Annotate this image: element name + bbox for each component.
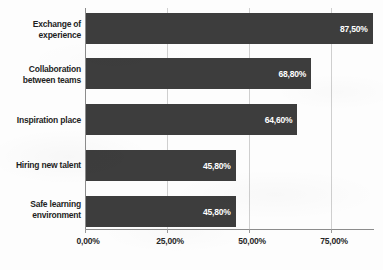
category-label-line: environment: [3, 210, 81, 221]
category-label-line: Inspiration place: [3, 115, 81, 126]
bar-hiring-new-talent: 45,80%: [85, 150, 236, 181]
category-label-line: Safe learning: [3, 199, 81, 210]
x-tick-mark-25: [167, 229, 168, 233]
x-tick-mark-50: [249, 229, 250, 233]
category-label-inspiration-place: Inspiration place: [3, 115, 81, 126]
category-label-safe-learning-environment: Safe learning environment: [3, 199, 81, 220]
bar-safe-learning-environment: 45,80%: [85, 196, 236, 227]
bar-collaboration-between-teams: 68,80%: [85, 58, 311, 89]
category-label-line: Collaboration: [3, 64, 81, 75]
bar-value-label: 68,80%: [279, 69, 307, 79]
category-label-line: Exchange of: [3, 19, 81, 30]
x-tick-mark-75: [331, 229, 332, 233]
category-label-line: experience: [3, 30, 81, 41]
bar-value-label: 45,80%: [203, 207, 231, 217]
x-tick-label-0: 0,00%: [76, 236, 99, 246]
category-label-collaboration-between-teams: Collaboration between teams: [3, 64, 81, 85]
y-axis-line: [85, 8, 86, 230]
bar-row: 87,50%: [85, 13, 374, 44]
x-tick-mark-0: [85, 229, 86, 233]
x-tick-label-75: 75,00%: [320, 236, 348, 246]
bar-exchange-of-experience: 87,50%: [85, 13, 373, 44]
bar-chart: Exchange of experience Collaboration bet…: [0, 0, 383, 270]
category-label-line: between teams: [3, 75, 81, 86]
category-label-exchange-of-experience: Exchange of experience: [3, 19, 81, 40]
category-label-line: Hiring new talent: [3, 160, 81, 171]
x-tick-label-50: 50,00%: [238, 236, 266, 246]
category-axis-labels: Exchange of experience Collaboration bet…: [0, 0, 81, 270]
bar-inspiration-place: 64,60%: [85, 104, 297, 135]
bar-value-label: 87,50%: [340, 24, 368, 34]
x-tick-label-25: 25,00%: [156, 236, 184, 246]
bar-value-label: 45,80%: [203, 161, 231, 171]
category-label-hiring-new-talent: Hiring new talent: [3, 160, 81, 171]
bar-value-label: 64,60%: [265, 115, 293, 125]
